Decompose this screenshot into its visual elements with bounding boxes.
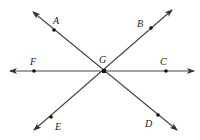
label-g: G <box>99 54 106 65</box>
label-a: A <box>52 15 60 26</box>
line-AD-ray-2 <box>105 71 177 130</box>
line-EB-ray-1 <box>34 70 103 130</box>
point-f <box>32 69 36 73</box>
label-c: C <box>160 56 167 67</box>
point-c <box>164 69 168 73</box>
point-e <box>49 115 53 119</box>
geometry-diagram: ABCDEFG <box>0 0 200 140</box>
point-d <box>156 113 160 117</box>
point-g <box>102 69 106 73</box>
point-b <box>149 26 153 30</box>
point-a <box>52 28 56 32</box>
label-e: E <box>54 121 61 132</box>
label-b: B <box>137 18 143 29</box>
label-f: F <box>29 56 37 67</box>
label-d: D <box>144 118 153 129</box>
line-AD-ray-1 <box>33 12 105 71</box>
